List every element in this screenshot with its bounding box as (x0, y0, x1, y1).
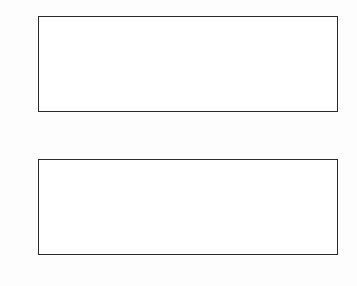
plot-area-top (38, 16, 338, 112)
figure-panel (0, 0, 357, 286)
waveform-v-bus4 (39, 160, 337, 254)
plot-area-bottom (38, 159, 338, 255)
waveform-v-bus3 (39, 17, 337, 111)
subplot-v-bus3 (0, 0, 357, 143)
subplot-v-bus4 (0, 143, 357, 286)
